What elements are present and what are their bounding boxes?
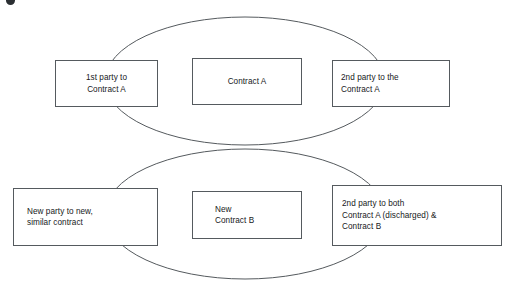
second-party-contract-a-box: 2nd party to the Contract A (332, 60, 450, 107)
second-party-both-contracts-box: 2nd party to both Contract A (discharged… (332, 185, 502, 246)
second-party-contract-a-label: 2nd party to the Contract A (341, 72, 449, 95)
new-party-similar-contract-label: New party to new, similar contract (27, 206, 157, 229)
ellipse-layer (0, 0, 512, 291)
new-contract-b-label: New Contract B (215, 204, 301, 227)
first-party-contract-a-box: 1st party to Contract A (55, 60, 158, 107)
first-party-contract-a-label: 1st party to Contract A (60, 72, 153, 95)
contract-a-box: Contract A (192, 58, 302, 105)
diagram-canvas: 1st party to Contract A Contract A 2nd p… (0, 0, 512, 291)
new-party-similar-contract-box: New party to new, similar contract (13, 188, 158, 246)
contract-a-label: Contract A (197, 76, 297, 88)
new-contract-b-box: New Contract B (192, 191, 302, 239)
second-party-both-contracts-label: 2nd party to both Contract A (discharged… (342, 198, 501, 233)
